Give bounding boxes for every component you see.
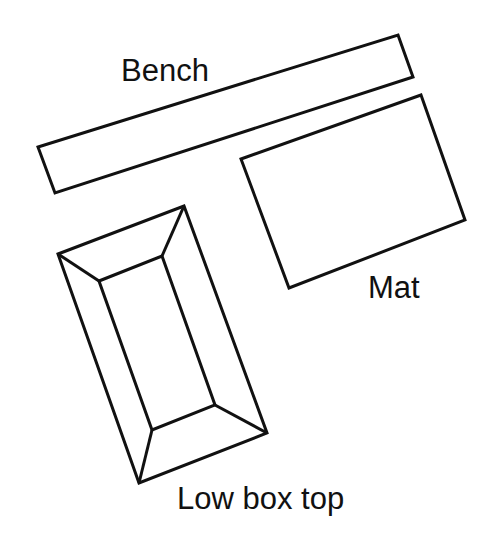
low-box-bevel-line-bl [139,430,152,483]
low-box-outer-edge [58,206,267,483]
mat-label: Mat [368,272,420,303]
low-box-inner-edge [99,256,215,430]
low-box-top-label: Low box top [177,483,344,514]
low-box-top-shape [58,206,267,483]
mat-shape [241,95,465,288]
bench-label: Bench [121,55,209,86]
bench-shape [38,35,413,193]
diagram-canvas [0,0,497,549]
